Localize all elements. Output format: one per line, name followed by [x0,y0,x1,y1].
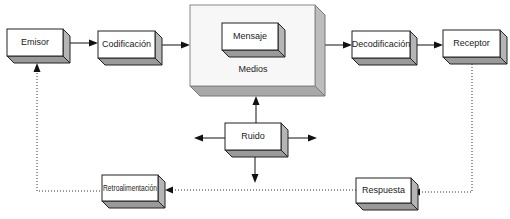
node-label: Emisor [21,37,49,47]
node-codificacion: Codificación [98,31,162,65]
communication-process-diagram: Medios Mensaje Emisor Codificación Decod… [0,0,510,219]
feedback-receptor-respuesta [420,64,472,192]
node-retroalimentacion: Retroalimentación [102,175,165,208]
node-label: Respuesta [362,185,405,195]
node-mensaje: Mensaje [222,23,285,57]
node-label: Ruido [241,131,265,141]
feedback-retroalimentacion-emisor [37,71,100,191]
node-emisor: Emisor [7,29,70,63]
arrowhead-icon [252,174,259,183]
node-label: Decodificación [352,39,411,49]
node-label: Receptor [453,38,490,48]
arrowhead-icon [434,42,443,49]
node-decodificacion: Decodificación [352,31,417,65]
node-ruido: Ruido [225,123,288,157]
node-label: Medios [238,64,268,74]
node-respuesta: Respuesta [356,178,418,210]
arrowhead-icon [181,42,190,49]
arrowhead-icon [165,187,173,194]
node-receptor: Receptor [443,30,507,64]
arrowhead-icon [308,135,317,142]
node-label: Codificación [102,39,151,49]
arrowhead-icon [253,96,260,105]
arrowhead-icon [89,40,98,47]
arrowhead-icon [194,135,203,142]
node-label: Mensaje [233,31,267,41]
arrowhead-icon [34,63,41,72]
node-label: Retroalimentación [103,183,157,193]
arrowhead-icon [343,42,352,49]
